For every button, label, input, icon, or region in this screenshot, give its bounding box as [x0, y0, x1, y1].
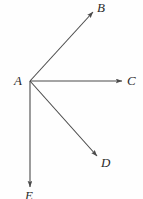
ray-label-b: B — [97, 1, 105, 14]
ray-AB — [30, 12, 93, 81]
ray-AD — [30, 81, 97, 156]
ray-label-e: E — [25, 189, 33, 199]
geometry-figure: A B C D E — [0, 0, 143, 199]
vertex-label-a: A — [14, 74, 22, 87]
ray-label-c: C — [127, 74, 136, 87]
rays-canvas — [0, 0, 143, 199]
ray-label-d: D — [101, 156, 110, 169]
